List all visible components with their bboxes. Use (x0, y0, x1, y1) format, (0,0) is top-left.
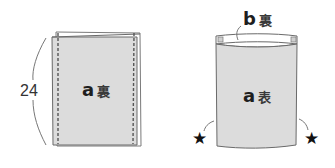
wrong-side-label: 裏 (97, 84, 110, 99)
lining-label: b裏 (243, 10, 272, 28)
star-marker-left-icon: ★ (192, 130, 207, 147)
diagram-canvas (0, 0, 335, 168)
left-panel-label: a裏 (82, 81, 110, 99)
fabric-b-label: b (243, 8, 256, 29)
fabric-a-label: a (82, 79, 94, 100)
star-marker-right-icon: ★ (304, 130, 319, 147)
right-panel-label: a表 (243, 87, 271, 105)
right-side-label: 表 (258, 90, 271, 105)
dimension-label: 24 (20, 82, 38, 100)
lining-wrong-side-label: 裏 (259, 13, 272, 28)
fabric-a-label: a (243, 85, 255, 106)
